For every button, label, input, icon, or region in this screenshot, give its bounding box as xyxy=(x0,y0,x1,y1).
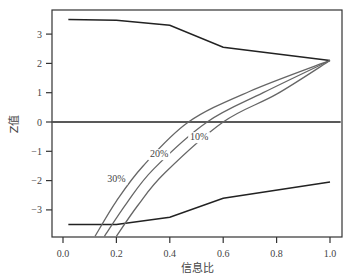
y-tick-label: 3 xyxy=(37,29,42,40)
x-tick-label: 0.6 xyxy=(217,248,230,259)
y-tick-label: −2 xyxy=(31,175,42,186)
x-axis-title: 信息比 xyxy=(181,261,214,275)
series-upper-bound xyxy=(68,19,330,60)
x-tick-label: 0.8 xyxy=(270,248,283,259)
z-value-chart: 30%20%10% 0.00.20.40.60.81.0 −3−2−10123 … xyxy=(0,0,352,280)
y-tick-label: 1 xyxy=(37,87,42,98)
x-tick-label: 1.0 xyxy=(324,248,337,259)
x-axis: 0.00.20.40.60.81.0 xyxy=(57,237,337,259)
x-tick-label: 0.4 xyxy=(164,248,177,259)
series-30 xyxy=(95,60,330,236)
y-tick-label: 0 xyxy=(37,117,42,128)
x-tick-label: 0.2 xyxy=(110,248,123,259)
y-tick-label: −1 xyxy=(31,146,42,157)
y-tick-label: 2 xyxy=(37,58,42,69)
curve-label-20pct: 20% xyxy=(150,148,168,159)
series-10 xyxy=(116,60,330,236)
plot-frame xyxy=(52,10,342,237)
y-axis-title: Z值 xyxy=(8,115,21,134)
curve-label-30pct: 30% xyxy=(107,173,125,184)
y-axis: −3−2−10123 xyxy=(31,29,52,216)
series-lower-bound xyxy=(68,182,330,224)
y-tick-label: −3 xyxy=(31,204,42,215)
curve-label-10pct: 10% xyxy=(190,131,208,142)
series-20 xyxy=(104,60,330,236)
x-tick-label: 0.0 xyxy=(57,248,70,259)
plot-area: 30%20%10% xyxy=(52,10,342,237)
